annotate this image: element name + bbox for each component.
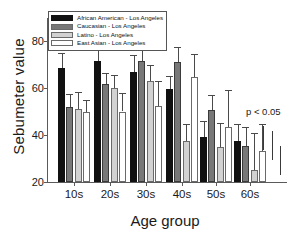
- x-tick-mark: [216, 182, 217, 186]
- x-tick-label: 20s: [101, 188, 120, 200]
- y-axis-title: Sebumeter value: [10, 17, 27, 177]
- error-bar: [62, 53, 63, 68]
- error-bar-cap: [111, 75, 118, 76]
- chart-figure: Sebumeter value Age group 20406080 10s20…: [0, 0, 295, 238]
- error-bar: [228, 90, 229, 126]
- bar: [130, 72, 137, 182]
- error-bar-cap: [75, 92, 82, 93]
- bar: [191, 77, 198, 182]
- bar: [102, 84, 109, 182]
- error-bar-cap: [147, 65, 154, 66]
- legend-item: Caucasian - Los Angeles: [51, 22, 163, 30]
- legend-label: Latino - Los Angeles: [77, 32, 133, 38]
- error-bar-cap: [58, 53, 65, 54]
- error-bar-cap: [191, 54, 198, 55]
- legend-swatch: [51, 40, 73, 46]
- error-bar: [186, 124, 187, 140]
- error-bar-cap: [242, 127, 249, 128]
- significance-marker: [263, 126, 264, 151]
- bar: [225, 127, 232, 182]
- y-tick-mark: [44, 88, 48, 89]
- error-bar-cap: [83, 100, 90, 101]
- error-bar: [70, 94, 71, 107]
- error-bar-cap: [208, 95, 215, 96]
- error-bar-cap: [130, 55, 137, 56]
- error-bar: [114, 75, 115, 88]
- x-tick-mark: [182, 182, 183, 186]
- error-bar: [158, 81, 159, 106]
- bar: [111, 88, 118, 182]
- error-bar: [86, 100, 87, 112]
- error-bar: [150, 65, 151, 81]
- bar: [155, 106, 162, 182]
- bar: [242, 146, 249, 182]
- error-bar-cap: [251, 133, 258, 134]
- legend-item: Latino - Los Angeles: [51, 31, 163, 39]
- bar: [200, 137, 207, 182]
- error-bar-cap: [174, 47, 181, 48]
- error-bar-cap: [66, 94, 73, 95]
- y-tick-mark: [44, 135, 48, 136]
- bar: [166, 89, 173, 182]
- error-bar: [212, 95, 213, 110]
- x-tick-mark: [146, 182, 147, 186]
- bar: [208, 110, 215, 182]
- error-bar: [194, 54, 195, 78]
- x-axis-title: Age group: [40, 212, 290, 229]
- bar: [217, 147, 224, 182]
- x-tick-label: 10s: [65, 188, 84, 200]
- bar: [75, 109, 82, 182]
- bar: [66, 107, 73, 182]
- legend-swatch: [51, 24, 73, 30]
- legend-item: East Asian - Los Angeles: [51, 39, 163, 47]
- legend-item: African American - Los Angeles: [51, 14, 163, 22]
- chart-legend: African American - Los AngelesCaucasian …: [48, 11, 167, 51]
- error-bar: [170, 76, 171, 89]
- bar: [58, 68, 65, 182]
- x-axis-line: [47, 182, 287, 183]
- error-bar: [220, 123, 221, 147]
- bar: [147, 81, 154, 182]
- x-tick-label: 30s: [137, 188, 156, 200]
- legend-label: African American - Los Angeles: [77, 15, 163, 21]
- error-bar-cap: [102, 73, 109, 74]
- legend-label: East Asian - Los Angeles: [77, 40, 145, 46]
- bar: [234, 141, 241, 182]
- error-bar: [122, 93, 123, 112]
- bar: [183, 141, 190, 182]
- error-bar: [134, 55, 135, 71]
- error-bar: [78, 92, 79, 110]
- bar: [251, 170, 258, 182]
- significance-marker: [280, 146, 281, 175]
- legend-swatch: [51, 15, 73, 21]
- y-tick-label: 80: [32, 35, 44, 47]
- bar: [94, 61, 101, 182]
- bar: [174, 62, 181, 182]
- bar: [138, 61, 145, 182]
- bar: [259, 151, 266, 182]
- y-tick-label: 60: [32, 82, 44, 94]
- bar: [119, 112, 126, 183]
- error-bar-cap: [234, 124, 241, 125]
- error-bar-cap: [225, 90, 232, 91]
- error-bar: [178, 47, 179, 62]
- error-bar: [238, 124, 239, 140]
- error-bar: [204, 121, 205, 137]
- error-bar-cap: [183, 124, 190, 125]
- x-tick-label: 50s: [207, 188, 226, 200]
- y-tick-label: 40: [32, 129, 44, 141]
- error-bar-cap: [200, 121, 207, 122]
- x-tick-label: 40s: [173, 188, 192, 200]
- x-tick-mark: [74, 182, 75, 186]
- legend-swatch: [51, 32, 73, 38]
- bar: [83, 112, 90, 183]
- x-tick-mark: [250, 182, 251, 186]
- legend-label: Caucasian - Los Angeles: [77, 23, 145, 29]
- error-bar-cap: [119, 93, 126, 94]
- y-tick-mark: [44, 182, 48, 183]
- x-tick-label: 60s: [241, 188, 260, 200]
- error-bar-cap: [166, 76, 173, 77]
- pvalue-annotation: p < 0.05: [246, 106, 281, 117]
- error-bar: [246, 127, 247, 146]
- error-bar: [106, 73, 107, 85]
